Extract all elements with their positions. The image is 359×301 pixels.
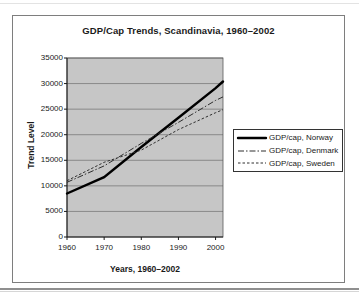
series-line-denmark — [67, 97, 223, 182]
bottom-divider — [0, 288, 359, 290]
series-line-norway — [67, 82, 223, 194]
y-tick-label: 5000 — [29, 207, 63, 215]
legend-label: GDP/cap, Norway — [269, 133, 333, 142]
legend-item-norway: GDP/cap, Norway — [234, 132, 342, 144]
top-divider — [0, 3, 359, 4]
legend-line-sample — [238, 146, 266, 156]
legend-item-denmark: GDP/cap, Denmark — [234, 145, 342, 157]
y-tick-label: 20000 — [29, 131, 63, 139]
legend-label: GDP/cap, Sweden — [269, 159, 335, 168]
page: GDP/Cap Trends, Scandinavia, 1960–2002 T… — [0, 0, 359, 301]
y-tick-label: 15000 — [29, 156, 63, 164]
x-axis-title: Years, 1960–2002 — [67, 264, 223, 274]
legend-line-sample — [238, 158, 266, 168]
plot-area — [67, 58, 223, 237]
x-tick-label: 1980 — [126, 244, 156, 252]
legend-label: GDP/cap, Denmark — [269, 146, 338, 155]
x-tick-label: 2000 — [201, 244, 231, 252]
y-tick-label: 25000 — [29, 105, 63, 113]
legend-item-sweden: GDP/cap, Sweden — [234, 157, 342, 169]
chart-frame: GDP/Cap Trends, Scandinavia, 1960–2002 T… — [12, 15, 345, 283]
y-tick-label: 30000 — [29, 80, 63, 88]
legend-line-sample — [238, 133, 266, 143]
y-tick-label: 10000 — [29, 182, 63, 190]
y-tick-label: 0 — [29, 233, 63, 241]
legend: GDP/cap, NorwayGDP/cap, DenmarkGDP/cap, … — [233, 129, 343, 172]
bottom-divider-shadow — [0, 291, 359, 292]
x-tick-label: 1990 — [163, 244, 193, 252]
y-tick-label: 35000 — [29, 54, 63, 62]
x-tick-label: 1970 — [89, 244, 119, 252]
line-chart — [67, 58, 223, 237]
x-tick-label: 1960 — [52, 244, 82, 252]
chart-title: GDP/Cap Trends, Scandinavia, 1960–2002 — [13, 25, 344, 36]
